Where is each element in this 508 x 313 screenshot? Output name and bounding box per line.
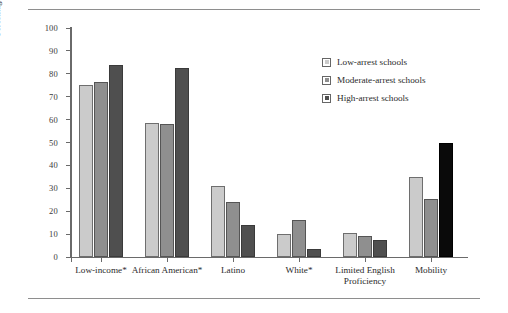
y-tick — [66, 96, 72, 97]
y-tick-label: 20 — [24, 206, 58, 216]
y-tick-label: 30 — [24, 183, 58, 193]
y-tick — [66, 165, 72, 166]
bar — [343, 233, 358, 257]
legend-swatch-icon — [322, 58, 331, 67]
bottom-rule — [28, 298, 480, 299]
y-tick — [66, 188, 72, 189]
x-tick — [299, 257, 300, 262]
x-tick — [365, 257, 366, 262]
bar — [79, 85, 94, 257]
y-tick-label: 60 — [24, 115, 58, 125]
y-tick — [66, 142, 72, 143]
bar — [211, 186, 226, 257]
bar — [358, 236, 373, 257]
y-tick-label: 90 — [24, 46, 58, 56]
legend-label: Moderate-arrest schools — [337, 75, 426, 85]
x-tick-label: Mobility — [383, 265, 479, 276]
x-tick — [431, 257, 432, 262]
bar — [307, 249, 322, 257]
y-tick — [66, 211, 72, 212]
x-tick — [101, 257, 102, 262]
bar — [226, 202, 241, 257]
y-tick — [66, 28, 72, 29]
y-tick — [66, 50, 72, 51]
legend-swatch-icon — [322, 94, 331, 103]
y-tick-label: 70 — [24, 92, 58, 102]
y-tick — [66, 234, 72, 235]
bar — [94, 82, 109, 257]
legend: Low-arrest schoolsModerate-arrest school… — [322, 55, 426, 109]
x-tick — [167, 257, 168, 262]
bar — [241, 225, 256, 257]
y-tick — [66, 119, 72, 120]
legend-label: Low-arrest schools — [337, 57, 407, 67]
bar — [277, 234, 292, 257]
top-rule — [28, 9, 480, 10]
legend-item: High-arrest schools — [322, 91, 426, 105]
bar-group — [145, 28, 190, 257]
y-tick-label: 0 — [24, 252, 58, 262]
y-tick-label: 40 — [24, 160, 58, 170]
y-axis-title: Percentage of Schools in Category — [0, 0, 2, 60]
legend-item: Moderate-arrest schools — [322, 73, 426, 87]
bar-group — [277, 28, 322, 257]
bar — [109, 65, 124, 257]
figure: Percentage of Schools in Category 010203… — [0, 0, 508, 313]
bar — [439, 143, 454, 258]
bar — [409, 177, 424, 257]
y-tick-label: 50 — [24, 138, 58, 148]
bar — [145, 123, 160, 257]
bar — [160, 124, 175, 257]
x-tick-origin — [71, 257, 72, 262]
y-tick — [66, 73, 72, 74]
bar — [424, 199, 439, 257]
legend-swatch-icon — [322, 76, 331, 85]
legend-label: High-arrest schools — [337, 93, 409, 103]
x-tick — [233, 257, 234, 262]
legend-item: Low-arrest schools — [322, 55, 426, 69]
bar — [373, 240, 388, 257]
y-tick-label: 80 — [24, 69, 58, 79]
bar — [292, 220, 307, 257]
bar-group — [211, 28, 256, 257]
bar — [175, 68, 190, 257]
y-tick-label: 10 — [24, 229, 58, 239]
bar-group — [79, 28, 124, 257]
y-tick-label: 100 — [24, 23, 58, 33]
